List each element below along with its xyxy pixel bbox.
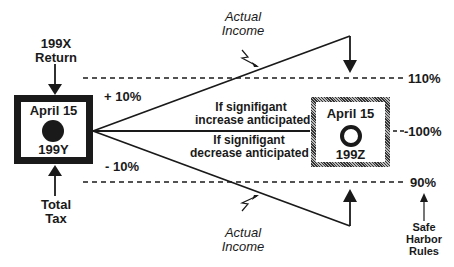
box-199y-year: 199Y xyxy=(21,142,86,157)
box-199y-title: April 15 xyxy=(21,103,86,118)
box-199y: April 15 199Y xyxy=(14,95,93,164)
open-circle-icon xyxy=(340,125,362,147)
box-199z-title: April 15 xyxy=(316,106,385,121)
decrease-label: If signifigantdecrease anticipated xyxy=(190,134,308,160)
zigzag-top-icon xyxy=(242,50,257,66)
increase-label: If signifigantincrease anticipated xyxy=(195,101,307,127)
return-arrow-icon xyxy=(48,84,62,95)
threshold-100: -100% xyxy=(404,125,442,139)
zigzag-bottom-icon xyxy=(242,196,257,211)
threshold-90: 90% xyxy=(410,176,436,190)
safe-harbor-arrow-icon xyxy=(420,193,428,202)
filled-circle-icon xyxy=(42,120,64,142)
plus-10-label: + 10% xyxy=(104,90,141,104)
safe-harbor-label: SafeHarborRules xyxy=(400,221,448,257)
minus-10-label: - 10% xyxy=(105,160,139,174)
total-tax-arrow-icon xyxy=(48,165,62,176)
bottom-label: TotalTax xyxy=(30,198,82,226)
down-arrow-icon xyxy=(343,60,357,73)
threshold-110: 110% xyxy=(408,72,441,86)
actual-income-top: ActualIncome xyxy=(218,10,268,38)
top-label: 199XReturn xyxy=(30,37,82,65)
actual-income-bottom: ActualIncome xyxy=(218,226,268,254)
up-arrow-icon xyxy=(343,189,357,202)
box-199z: April 15 199Z xyxy=(311,97,390,167)
box-199z-year: 199Z xyxy=(316,147,385,162)
